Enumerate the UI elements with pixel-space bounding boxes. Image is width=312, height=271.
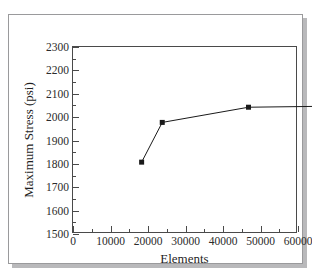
y-axis-minor-tick: [73, 105, 76, 106]
x-axis-tick-label: 60000: [284, 235, 312, 247]
y-axis-tick-label: 1500: [46, 228, 69, 240]
x-axis-minor-tick: [279, 229, 280, 232]
y-axis-minor-tick: [73, 59, 76, 60]
y-axis-tick: [73, 47, 79, 48]
y-axis-title-label: Maximum Stress (psi): [21, 82, 37, 198]
series-data-point: [139, 160, 144, 165]
y-axis-tick: [73, 117, 79, 118]
x-axis-tick: [148, 226, 149, 232]
y-axis-tick-label: 1800: [46, 158, 69, 170]
figure-screenshot: Maximum Stress (psi) Elements 1500160017…: [0, 0, 312, 271]
y-axis-minor-tick: [73, 199, 76, 200]
y-axis-minor-tick: [73, 176, 76, 177]
x-axis-tick: [73, 226, 74, 232]
y-axis-tick-label: 1700: [46, 181, 69, 193]
x-axis-tick-label: 40000: [209, 235, 238, 247]
y-axis-minor-tick: [73, 152, 76, 153]
y-axis-tick-label: 1900: [46, 135, 69, 147]
cut-off-caption: [26, 0, 226, 7]
x-axis-tick: [261, 226, 262, 232]
y-axis-tick-label: 2100: [46, 88, 69, 100]
x-axis-tick: [223, 226, 224, 232]
x-axis-tick-label: 10000: [96, 235, 125, 247]
x-axis-minor-tick: [204, 229, 205, 232]
y-axis-tick-label: 2200: [46, 64, 69, 76]
x-axis-minor-tick: [242, 229, 243, 232]
y-axis-tick: [73, 94, 79, 95]
y-axis-minor-tick: [73, 222, 76, 223]
x-axis-tick: [298, 226, 299, 232]
series-data-point: [246, 105, 251, 110]
x-axis-tick-label: 0: [70, 235, 76, 247]
y-axis-tick-label: 1600: [46, 205, 69, 217]
y-axis-tick-label: 2000: [46, 111, 69, 123]
y-axis-minor-tick: [73, 129, 76, 130]
x-axis-tick-label: 50000: [246, 235, 275, 247]
y-axis-minor-tick: [73, 82, 76, 83]
x-axis-tick: [111, 226, 112, 232]
y-axis-tick: [73, 211, 79, 212]
x-axis-minor-tick: [167, 229, 168, 232]
y-axis-tick: [73, 141, 79, 142]
series-line: [142, 106, 312, 162]
x-axis-tick-label: 20000: [134, 235, 163, 247]
plot-area: 1500160017001800190020002100220023000100…: [72, 46, 297, 233]
x-axis-tick: [186, 226, 187, 232]
x-axis-minor-tick: [92, 229, 93, 232]
series-data-point: [160, 120, 165, 125]
y-axis-tick-label: 2300: [46, 41, 69, 53]
figure-frame: Maximum Stress (psi) Elements 1500160017…: [8, 14, 303, 264]
x-axis-minor-tick: [129, 229, 130, 232]
y-axis-tick: [73, 70, 79, 71]
y-axis-tick: [73, 187, 79, 188]
y-axis-title: Maximum Stress (psi): [21, 46, 37, 233]
x-axis-tick-label: 30000: [171, 235, 200, 247]
y-axis-tick: [73, 164, 79, 165]
